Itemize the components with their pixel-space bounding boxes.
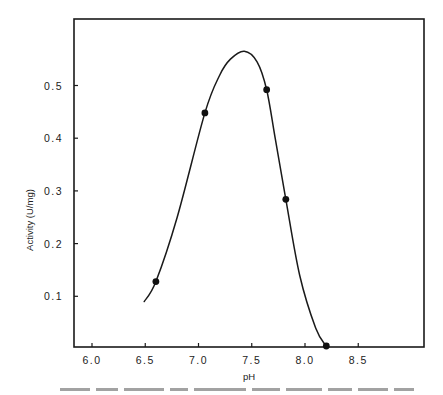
ph-activity-chart: 6.06.57.07.58.08.5 0.10.20.30.40.5 pH Ac… <box>0 0 443 395</box>
y-tick-label: 0.4 <box>44 132 63 144</box>
y-tick-label: 0.1 <box>44 290 63 302</box>
y-axis-ticks: 0.10.20.30.40.5 <box>44 80 78 303</box>
x-axis-label: pH <box>243 371 255 382</box>
data-point-marker <box>323 343 330 350</box>
plot-frame <box>74 19 424 347</box>
y-axis-label: Activity (U/mg) <box>24 189 35 251</box>
x-tick-label: 6.0 <box>82 354 101 366</box>
figure-caption-cropped <box>60 388 440 395</box>
data-points <box>153 86 330 349</box>
x-tick-label: 8.0 <box>295 354 314 366</box>
x-tick-label: 8.5 <box>349 354 368 366</box>
data-point-marker <box>263 86 270 93</box>
activity-curve <box>144 51 326 346</box>
data-point-marker <box>153 278 160 285</box>
y-tick-label: 0.5 <box>44 80 63 92</box>
x-tick-label: 7.5 <box>242 354 261 366</box>
x-tick-label: 7.0 <box>189 354 208 366</box>
data-point-marker <box>282 196 289 203</box>
y-tick-label: 0.2 <box>44 238 63 250</box>
data-point-marker <box>201 110 208 117</box>
x-tick-label: 6.5 <box>136 354 155 366</box>
y-tick-label: 0.3 <box>44 185 63 197</box>
